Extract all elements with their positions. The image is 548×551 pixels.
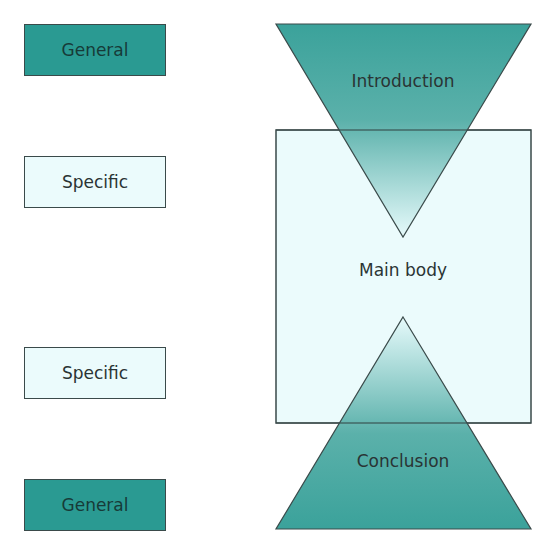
conclusion-label: Conclusion xyxy=(303,451,503,471)
introduction-label: Introduction xyxy=(303,71,503,91)
main-body-label: Main body xyxy=(303,260,503,280)
